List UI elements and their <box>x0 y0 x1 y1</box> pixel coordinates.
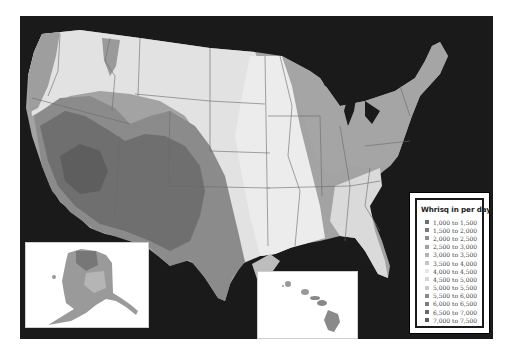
legend: Whrisq in per day 1,000 to 1,5001,500 to… <box>410 193 489 333</box>
map-frame: Whrisq in per day 1,000 to 1,5001,500 to… <box>20 16 493 339</box>
legend-label: 3,500 to 4,000 <box>433 260 477 267</box>
legend-swatch <box>425 310 429 314</box>
legend-label: 4,000 to 4,500 <box>433 268 477 275</box>
legend-swatch <box>425 318 429 322</box>
hawaii-island-molokai <box>310 296 320 300</box>
legend-item: 5,000 to 5,500 <box>420 284 479 292</box>
legend-label: 2,000 to 2,500 <box>433 235 477 242</box>
legend-item: 3,000 to 3,500 <box>420 251 479 259</box>
legend-item: 2,000 to 2,500 <box>420 234 479 242</box>
legend-item: 2,500 to 3,000 <box>420 243 479 251</box>
legend-label: 5,500 to 6,000 <box>433 292 477 299</box>
legend-item: 3,500 to 4,000 <box>420 259 479 267</box>
legend-label: 7,000 to 7,500 <box>433 317 477 324</box>
hawaii-island-niihau <box>282 285 284 287</box>
legend-swatch <box>425 228 429 232</box>
legend-swatch <box>425 302 429 306</box>
legend-item: 1,500 to 2,000 <box>420 226 479 234</box>
legend-swatch <box>425 245 429 249</box>
legend-swatch <box>425 286 429 290</box>
legend-label: 6,000 to 6,500 <box>433 300 477 307</box>
legend-label: 2,500 to 3,000 <box>433 243 477 250</box>
legend-item: 5,500 to 6,000 <box>420 292 479 300</box>
legend-swatch <box>425 277 429 281</box>
legend-swatch <box>425 269 429 273</box>
legend-swatch <box>425 294 429 298</box>
legend-swatch <box>425 220 429 224</box>
legend-label: 1,000 to 1,500 <box>433 219 477 226</box>
alaska-map <box>26 243 148 327</box>
legend-items: 1,000 to 1,5001,500 to 2,0002,000 to 2,5… <box>420 218 479 324</box>
hawaii-inset <box>257 271 358 339</box>
legend-item: 4,500 to 5,000 <box>420 275 479 283</box>
hawaii-map <box>258 272 357 338</box>
hawaii-island-big-island <box>324 310 340 332</box>
legend-item: 6,500 to 7,000 <box>420 308 479 316</box>
hawaii-island-oahu <box>301 289 309 295</box>
legend-swatch <box>425 253 429 257</box>
legend-label: 1,500 to 2,000 <box>433 227 477 234</box>
alaska-inset <box>25 242 149 328</box>
legend-swatch <box>425 261 429 265</box>
alaska-island <box>52 275 56 279</box>
hawaii-island-kauai <box>285 281 291 287</box>
legend-swatch <box>425 236 429 240</box>
legend-label: 4,500 to 5,000 <box>433 276 477 283</box>
legend-item: 7,000 to 7,500 <box>420 316 479 324</box>
legend-label: 5,000 to 5,500 <box>433 284 477 291</box>
legend-item: 6,000 to 6,500 <box>420 300 479 308</box>
legend-label: 3,000 to 3,500 <box>433 251 477 258</box>
legend-label: 6,500 to 7,000 <box>433 309 477 316</box>
legend-title: Whrisq in per day <box>421 205 479 214</box>
legend-item: 1,000 to 1,500 <box>420 218 479 226</box>
legend-item: 4,000 to 4,500 <box>420 267 479 275</box>
hawaii-island-maui <box>317 300 327 306</box>
